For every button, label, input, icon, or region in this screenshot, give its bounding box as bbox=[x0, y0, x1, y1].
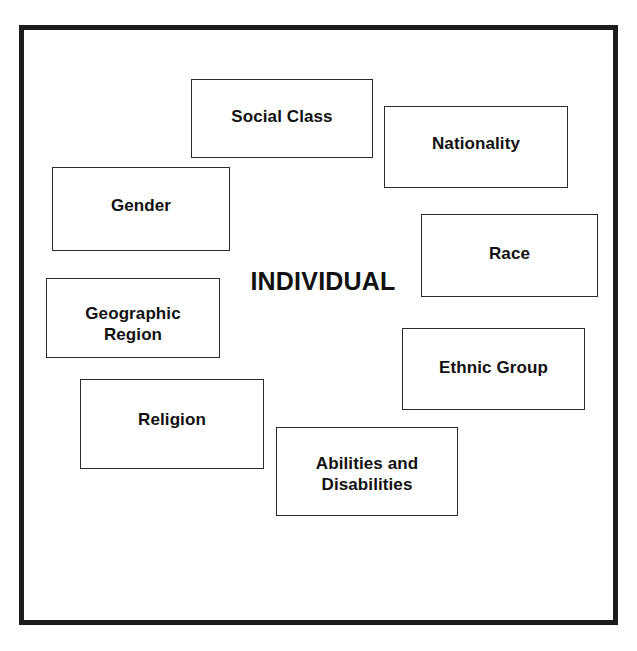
node-gender[interactable]: Gender bbox=[52, 167, 230, 251]
center-label-individual: INDIVIDUAL bbox=[243, 267, 403, 296]
node-abilities-and-disabilities[interactable]: Abilities and Disabilities bbox=[276, 427, 458, 516]
node-race[interactable]: Race bbox=[421, 214, 598, 297]
node-ethnic-group[interactable]: Ethnic Group bbox=[402, 328, 585, 410]
node-label-social-class: Social Class bbox=[192, 106, 372, 127]
node-label-nationality: Nationality bbox=[385, 133, 567, 154]
node-social-class[interactable]: Social Class bbox=[191, 79, 373, 158]
node-nationality[interactable]: Nationality bbox=[384, 106, 568, 188]
diagram-page: Social Class Nationality Gender Race Geo… bbox=[0, 0, 637, 651]
node-label-geographic-region: Geographic Region bbox=[47, 303, 219, 345]
node-label-abilities-and-disabilities: Abilities and Disabilities bbox=[277, 453, 457, 495]
node-label-race: Race bbox=[422, 243, 597, 264]
node-label-ethnic-group: Ethnic Group bbox=[403, 357, 584, 378]
diagram-outer-frame: Social Class Nationality Gender Race Geo… bbox=[19, 25, 618, 625]
node-geographic-region[interactable]: Geographic Region bbox=[46, 278, 220, 358]
node-label-religion: Religion bbox=[81, 409, 263, 430]
node-label-gender: Gender bbox=[53, 195, 229, 216]
node-religion[interactable]: Religion bbox=[80, 379, 264, 469]
